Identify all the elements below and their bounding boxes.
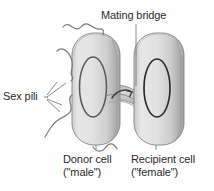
label-donor-cell-subtitle: ("male") [63, 166, 112, 179]
donor-cell-body [72, 33, 120, 145]
label-recipient-cell-title: Recipient cell [131, 153, 195, 165]
label-donor-cell: Donor cell ("male") [63, 153, 112, 179]
conjugation-diagram: Mating bridge Sex pili Donor cell ("male… [0, 0, 214, 191]
label-mating-bridge: Mating bridge [101, 9, 166, 22]
label-sex-pili: Sex pili [3, 90, 38, 103]
leader-sex-pili-bracket [47, 82, 66, 112]
label-recipient-cell-subtitle: ("female") [131, 166, 195, 179]
label-recipient-cell: Recipient cell ("female") [131, 153, 195, 179]
recipient-cell-body [134, 33, 184, 145]
pilus-middle [57, 49, 73, 81]
label-donor-cell-title: Donor cell [63, 153, 112, 165]
pilus-lower [45, 95, 72, 137]
